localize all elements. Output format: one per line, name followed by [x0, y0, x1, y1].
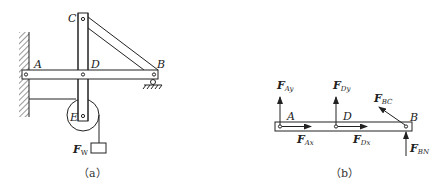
- label-d: D: [90, 58, 100, 71]
- label-f-ax: FAx: [296, 133, 314, 147]
- roller-support-b: [143, 80, 162, 90]
- label-c: C: [68, 12, 77, 25]
- label-f-bn: FBN: [409, 142, 430, 156]
- label-e: E: [69, 111, 78, 124]
- caption-a: （a）: [78, 167, 107, 180]
- pin-b: [152, 73, 155, 76]
- label-fw: FW: [72, 143, 89, 157]
- label-b-fbd: B: [409, 111, 418, 124]
- pin-e: [81, 114, 84, 117]
- label-a-fbd: A: [286, 110, 295, 123]
- pin-c: [81, 17, 84, 20]
- label-f-dx: FDx: [352, 133, 370, 147]
- pin-a-fbd: [278, 125, 281, 128]
- figure-b: A D B FAy FDy FBC FAx FDx FBN （b）: [275, 79, 430, 180]
- pin-d-fbd: [334, 125, 337, 128]
- label-f-bc: FBC: [373, 92, 393, 106]
- label-f-dy: FDy: [332, 79, 351, 93]
- figure-a: A C D B E FW （a）: [19, 12, 165, 180]
- label-f-ay: FAy: [276, 79, 295, 93]
- weight-block: [91, 143, 106, 153]
- caption-b: （b）: [330, 167, 359, 180]
- diagram-canvas: A C D B E FW （a） A D B FAy FDy: [0, 0, 444, 193]
- pin-a: [24, 73, 27, 76]
- bar-ce: [78, 13, 88, 121]
- label-d-fbd: D: [342, 110, 352, 123]
- pin-d: [81, 73, 84, 76]
- beam-ab: [22, 70, 158, 79]
- label-a: A: [33, 58, 42, 71]
- pin-b-fbd: [404, 125, 407, 128]
- label-b: B: [156, 58, 165, 71]
